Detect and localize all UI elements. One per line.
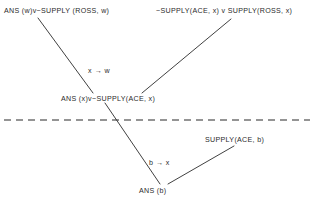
diagram-edges-layer: [0, 0, 314, 202]
edge-label-substitution-b-to-x: b → x: [149, 159, 170, 168]
clause-node-ans-b: ANS (b): [139, 187, 166, 196]
clause-node-supply-ace: SUPPLY(ACE, b): [205, 136, 264, 145]
diagram-canvas: ANS (w)v~SUPPLY (ROSS, w) ~SUPPLY(ACE, x…: [0, 0, 314, 202]
clause-node-top-right: ~SUPPLY(ACE, x) v SUPPLY(ROSS, x): [156, 7, 292, 16]
edge-topleft-to-middle: [38, 18, 93, 93]
edge-supply-to-ansb: [168, 146, 234, 184]
clause-node-top-left: ANS (w)v~SUPPLY (ROSS, w): [4, 7, 109, 16]
edge-label-substitution-x-to-w: x → w: [88, 67, 110, 76]
edge-middle-to-ansb: [105, 103, 160, 184]
edge-topright-to-middle: [142, 19, 231, 93]
clause-node-middle-resolvent: ANS (x)v~SUPPLY(ACE, x): [61, 95, 155, 104]
